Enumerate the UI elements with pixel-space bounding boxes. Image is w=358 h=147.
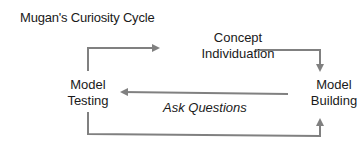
node-building-line2: Building [299, 93, 358, 109]
node-model-testing: Model Testing [55, 77, 121, 109]
node-concept-line1: Concept [195, 30, 281, 46]
edge-label-ask-questions: Ask Questions [163, 100, 247, 115]
node-testing-line2: Testing [55, 93, 121, 109]
node-model-building: Model Building [299, 77, 358, 109]
arrow-building-to-testing [122, 92, 288, 94]
node-concept-line2: Individuation [195, 46, 281, 62]
cycle-arrows [0, 0, 358, 147]
node-testing-line1: Model [55, 77, 121, 93]
arrow-testing-to-concept [88, 48, 158, 71]
node-building-line1: Model [299, 77, 358, 93]
node-concept-individuation: Concept Individuation [195, 30, 281, 62]
arrow-testing-to-building-loop [88, 112, 320, 136]
